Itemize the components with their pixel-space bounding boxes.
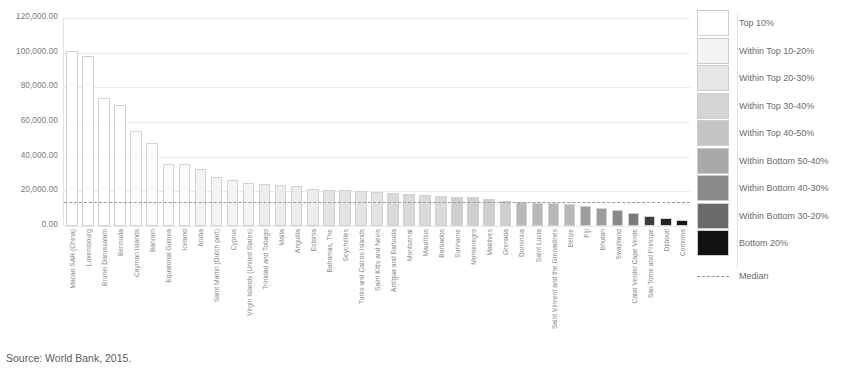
legend-item[interactable]: Within Top 30-40%	[697, 93, 814, 119]
x-axis-label-slot: Luxembourg	[80, 229, 96, 347]
bar[interactable]	[403, 194, 415, 226]
bar[interactable]	[339, 190, 351, 226]
x-axis-label-slot: Barbados	[433, 229, 449, 347]
legend-item[interactable]: Top 10%	[697, 10, 774, 36]
bar-slot	[610, 18, 626, 226]
bar[interactable]	[307, 189, 319, 226]
legend-swatch	[697, 203, 729, 229]
bar-slot	[273, 18, 289, 226]
legend-label: Within Bottom 40-30%	[739, 183, 829, 193]
bar[interactable]	[323, 190, 335, 226]
bar[interactable]	[130, 131, 142, 226]
bar[interactable]	[98, 98, 110, 226]
x-axis-tick-label: Cabo Verde/ Cape Verde	[630, 229, 637, 303]
x-axis-tick-label: Suriname	[454, 229, 461, 258]
bar-slot	[337, 18, 353, 226]
x-axis-tick-label: Montenegro	[470, 229, 477, 265]
x-axis-tick-label: Anguilla	[293, 229, 300, 253]
x-axis-label-slot: Saint Kitts and Nevis	[369, 229, 385, 347]
x-axis-label-slot: Bahrain	[144, 229, 160, 347]
x-axis-tick-label: Fiji	[582, 229, 589, 238]
bar[interactable]	[243, 183, 255, 226]
bar[interactable]	[516, 202, 528, 226]
bar[interactable]	[387, 193, 399, 226]
bar[interactable]	[548, 203, 560, 226]
bar[interactable]	[195, 169, 207, 226]
bar[interactable]	[163, 164, 175, 226]
legend-swatch	[697, 38, 729, 64]
x-axis-tick-label: Saint Kitts and Nevis	[373, 229, 380, 291]
bar[interactable]	[451, 197, 463, 226]
legend-label: Within Top 10-20%	[739, 46, 814, 56]
legend-label: Within Bottom 30-20%	[739, 211, 829, 221]
bar-slot	[385, 18, 401, 226]
bar-slot	[481, 18, 497, 226]
legend-label: Within Top 20-30%	[739, 73, 814, 83]
x-axis-tick-label: Malta	[277, 229, 284, 245]
bar[interactable]	[419, 195, 431, 226]
bar-slot	[449, 18, 465, 226]
legend-label: Bottom 20%	[739, 238, 788, 248]
legend-item[interactable]: Within Bottom 30-20%	[697, 203, 829, 229]
bar-series	[64, 18, 690, 226]
legend-item[interactable]: Within Top 40-50%	[697, 120, 814, 146]
x-axis-tick-label: Grenada	[502, 229, 509, 255]
bar-slot	[144, 18, 160, 226]
bar[interactable]	[66, 51, 78, 226]
x-axis-tick-label: Barbados	[438, 229, 445, 258]
bar[interactable]	[628, 213, 640, 226]
x-axis-tick-label: Cayman Islands	[133, 229, 140, 277]
bar[interactable]	[644, 216, 656, 226]
bar[interactable]	[612, 210, 624, 226]
bar[interactable]	[82, 56, 94, 226]
legend-item-median: Median	[697, 269, 769, 283]
x-axis-tick-label: Saint Martin (Dutch part)	[213, 229, 220, 302]
bar[interactable]	[146, 143, 158, 226]
bar[interactable]	[259, 184, 271, 226]
legend-swatch	[697, 148, 729, 174]
bar[interactable]	[291, 186, 303, 226]
legend-item[interactable]: Within Top 10-20%	[697, 38, 814, 64]
bar-slot	[674, 18, 690, 226]
bar[interactable]	[371, 192, 383, 226]
bar-slot	[529, 18, 545, 226]
legend-item[interactable]: Within Top 20-30%	[697, 65, 814, 91]
bar-slot	[353, 18, 369, 226]
x-axis-label-slot: Grenada	[497, 229, 513, 347]
bar[interactable]	[532, 203, 544, 226]
legend-item[interactable]: Within Bottom 50-40%	[697, 148, 829, 174]
x-axis-tick-label: Turks and Caicos Islands	[357, 229, 364, 304]
legend-swatch	[697, 10, 729, 36]
legend-swatch	[697, 230, 729, 256]
bar-slot	[401, 18, 417, 226]
x-axis-tick-label: Bermuda	[117, 229, 124, 256]
x-axis-tick-label: Brunei Darussalam	[101, 229, 108, 286]
bar[interactable]	[564, 204, 576, 226]
bar[interactable]	[500, 201, 512, 226]
x-axis-tick-label: Antigua and Barbuda	[390, 229, 397, 292]
bar[interactable]	[483, 199, 495, 226]
bar-slot	[369, 18, 385, 226]
bar[interactable]	[114, 105, 126, 226]
x-axis-tick-label: Saint Lucia	[534, 229, 541, 262]
bar[interactable]	[580, 206, 592, 226]
x-axis-label-slot: Suriname	[449, 229, 465, 347]
bar[interactable]	[676, 220, 688, 226]
legend-item[interactable]: Bottom 20%	[697, 230, 788, 256]
bar[interactable]	[660, 218, 672, 226]
bar[interactable]	[435, 196, 447, 226]
x-axis-tick-label: Virgin Islands (United States)	[245, 229, 252, 316]
bar[interactable]	[275, 185, 287, 226]
legend-item[interactable]: Within Bottom 40-30%	[697, 175, 829, 201]
bar[interactable]	[179, 164, 191, 226]
x-axis-tick-label: Iceland	[181, 229, 188, 251]
bar[interactable]	[355, 191, 367, 226]
x-axis-label-slot: Montserrat	[401, 229, 417, 347]
x-axis-label-slot: Equatorial Guinea	[160, 229, 176, 347]
bar[interactable]	[596, 208, 608, 226]
bar-slot	[128, 18, 144, 226]
legend-swatch	[697, 93, 729, 119]
x-axis-tick-label: Bahrain	[149, 229, 156, 252]
legend: Top 10%Within Top 10-20%Within Top 20-30…	[697, 10, 853, 285]
bar-slot	[80, 18, 96, 226]
